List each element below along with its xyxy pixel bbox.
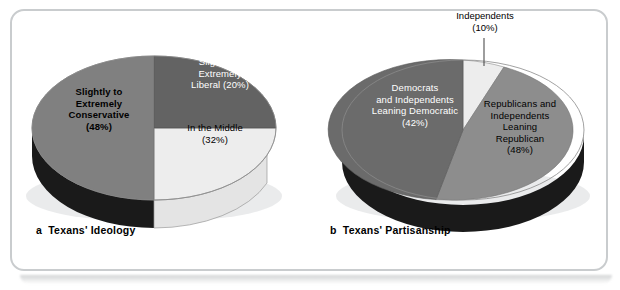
slice-label-republicans: Republicans and Independents Leaning Rep…	[460, 98, 580, 156]
chart-panel-ideology: Slightly to Extremely Conservative (48%)…	[14, 0, 314, 262]
chart-caption-ideology: a Texans' Ideology	[36, 224, 135, 236]
figure-frame-shadow	[20, 275, 612, 284]
chart-caption-partisanship: b Texans' Partisanship	[330, 224, 451, 236]
slice-label-liberal: Slightly to Extremely Liberal (20%)	[168, 56, 272, 91]
chart-panel-partisanship: Independents (10%) Democrats and Indepen…	[308, 0, 608, 262]
slice-label-in-the-middle: In the Middle (32%)	[160, 122, 270, 145]
slice-label-conservative: Slightly to Extremely Conservative (48%)	[36, 86, 162, 132]
callout-label-independents: Independents (10%)	[434, 10, 536, 34]
figure-container: Slightly to Extremely Conservative (48%)…	[0, 0, 620, 290]
